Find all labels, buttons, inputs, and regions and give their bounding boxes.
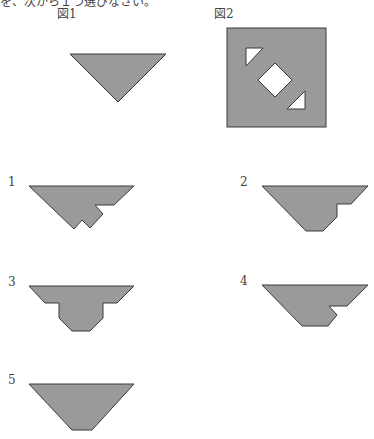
- option-1-shape[interactable]: [29, 186, 134, 229]
- option-2-shape[interactable]: [262, 186, 368, 231]
- figures-canvas: [0, 0, 374, 439]
- option-5-shape[interactable]: [29, 384, 134, 430]
- option-4-shape[interactable]: [262, 285, 368, 326]
- option-3-shape[interactable]: [29, 286, 134, 331]
- figure-1-triangle: [70, 54, 166, 102]
- figure-2-square: [227, 28, 326, 127]
